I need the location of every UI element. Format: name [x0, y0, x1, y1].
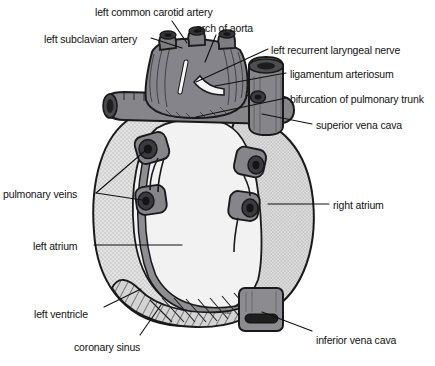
inferior-vena-cava-vessel: [239, 288, 283, 331]
label-left-recurrent-laryngeal-nerve: left recurrent laryngeal nerve: [271, 44, 400, 56]
artist-signature: vac: [224, 310, 232, 315]
label-pulmonary-veins: pulmonary veins: [3, 188, 77, 200]
bifurcation-orifice: [251, 91, 266, 103]
pulmonary-vein-stump-3: [232, 145, 267, 179]
label-left-ventricle: left ventricle: [34, 308, 88, 320]
brachiocephalic-stump: [159, 31, 176, 50]
label-inferior-vena-cava: inferior vena cava: [316, 334, 396, 346]
label-left-subclavian-artery: left subclavian artery: [44, 33, 137, 45]
label-left-atrium: left atrium: [33, 240, 77, 252]
label-ligamentum-arteriosum: ligamentum arteriosum: [290, 68, 394, 80]
label-left-common-carotid-artery: left common carotid artery: [95, 6, 212, 18]
label-right-atrium: right atrium: [333, 199, 384, 211]
label-bifurcation-of-pulmonary-trunk: bifurcation of pulmonary trunk: [290, 93, 424, 105]
label-superior-vena-cava: superior vena cava: [316, 119, 402, 131]
heart-anatomy-diagram: vac left common carotid arteryarch of ao…: [0, 0, 435, 366]
label-coronary-sinus: coronary sinus: [74, 341, 140, 353]
pulmonary-vein-stump-4: [227, 190, 261, 222]
label-arch-of-aorta: arch of aorta: [196, 22, 253, 34]
